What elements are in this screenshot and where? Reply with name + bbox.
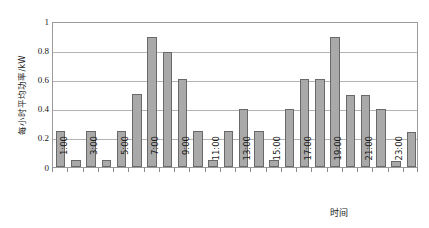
y-axis-tick-labels: 00.20.40.60.81: [22, 0, 49, 228]
x-axis-tick-label-text: 7:00: [150, 136, 160, 172]
y-axis-tick-label: 0.4: [23, 105, 49, 114]
x-axis-tick-label-text: 5:00: [120, 136, 130, 172]
x-axis-tick-label: 3:00: [85, 172, 95, 210]
x-axis-tick-label: 19:00: [329, 172, 339, 210]
x-axis-tick-label-text: 19:00: [333, 136, 343, 172]
y-axis-tick-label: 0.8: [23, 47, 49, 56]
x-axis-tick-label: 13:00: [238, 172, 248, 210]
bar: [315, 79, 324, 167]
bar: [163, 52, 172, 167]
x-axis-tick-label-text: 21:00: [364, 136, 374, 172]
x-axis-title: 时间: [330, 206, 348, 219]
bar: [193, 131, 202, 168]
bar: [254, 131, 263, 168]
x-axis-tick-label: 5:00: [116, 172, 126, 210]
bar: [71, 160, 80, 167]
bar: [376, 109, 385, 167]
x-axis-tick-label-text: 3:00: [89, 136, 99, 172]
x-axis-tick-label-text: 15:00: [272, 136, 282, 172]
y-axis-tick-label: 0.6: [23, 76, 49, 85]
x-axis-tick-label: 21:00: [360, 172, 370, 210]
x-axis-tick-label: 15:00: [268, 172, 278, 210]
x-axis-tick-label: 7:00: [146, 172, 156, 210]
x-axis-tick-label: 23:00: [390, 172, 400, 210]
bars-layer: [53, 23, 417, 167]
x-axis-tick-label: 11:00: [207, 172, 217, 210]
x-axis-tick-label: 17:00: [299, 172, 309, 210]
x-axis-tick-label-text: 1:00: [59, 136, 69, 172]
bar: [132, 94, 141, 167]
x-axis-tick-label-text: 17:00: [303, 136, 313, 172]
bar: [285, 109, 294, 167]
x-axis-tick-label-text: 13:00: [242, 136, 252, 172]
x-axis-tick-label: 9:00: [177, 172, 187, 210]
y-axis-tick-label: 0.2: [23, 134, 49, 143]
bar: [407, 132, 416, 167]
y-axis-tick-label: 0: [23, 164, 49, 173]
x-axis-tick-label-text: 9:00: [181, 136, 191, 172]
x-axis-tick-label-text: 11:00: [211, 136, 221, 172]
bar: [224, 131, 233, 168]
x-axis-tick-labels: 1:003:005:007:009:0011:0013:0015:0017:00…: [52, 172, 418, 212]
bar: [346, 95, 355, 167]
bar-chart: 每小时平均功率/kW 00.20.40.60.81 1:003:005:007:…: [0, 0, 429, 228]
x-axis-tick-label: 1:00: [55, 172, 65, 210]
x-axis-tick-label-text: 23:00: [394, 136, 404, 172]
y-axis-tick-label: 1: [23, 18, 49, 27]
bar: [102, 160, 111, 167]
